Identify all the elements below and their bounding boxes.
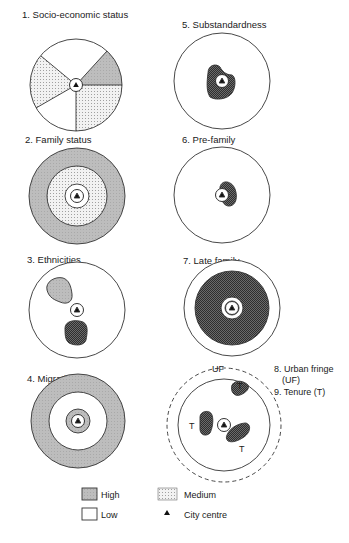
panel-title: 1. Socio-economic status	[22, 9, 128, 20]
panel-ethnicities: 3. Ethnicities	[27, 254, 125, 358]
legend-swatch-high	[82, 488, 97, 500]
city-centre-icon	[71, 190, 84, 203]
panel-substandardness: 5. Substandardness	[174, 19, 270, 129]
city-centre-icon	[226, 302, 239, 315]
panel-urban-fringe-tenure: UF T T T 8. Urban fringe (UF) 9. Tenure …	[167, 364, 334, 482]
city-centre-icon	[218, 419, 231, 432]
tenure-annotation: T	[237, 381, 243, 391]
tenure-cluster	[200, 411, 213, 435]
panel-socio-economic-status: 1. Socio-economic status	[22, 9, 128, 131]
city-centre-icon	[72, 415, 85, 428]
legend-swatch-medium	[158, 488, 177, 500]
panel-title: 2. Family status	[25, 134, 92, 145]
panel-title: 6. Pre-family	[182, 134, 236, 145]
legend-label-city-centre: City centre	[184, 510, 227, 520]
legend: High Low Medium City centre	[82, 488, 227, 520]
city-centre-icon	[216, 75, 229, 88]
city-centre-icon	[71, 304, 84, 317]
legend-swatch-low	[82, 508, 97, 520]
city-centre-icon	[164, 510, 170, 515]
panel-title: 5. Substandardness	[182, 19, 267, 30]
panel-pre-family: 6. Pre-family	[174, 134, 270, 243]
city-centre-icon	[70, 79, 83, 92]
legend-label-low: Low	[101, 510, 118, 520]
tenure-annotation: T	[189, 421, 195, 431]
panel-late-family: 7. Late family	[183, 255, 280, 356]
uf-annotation: UF	[212, 364, 224, 374]
panel-subtitle: (UF)	[282, 375, 300, 385]
tenure-annotation: T	[239, 444, 245, 454]
panel-family-status: 2. Family status	[25, 134, 125, 244]
panel-title: 8. Urban fringe	[274, 364, 334, 374]
city-centre-icon	[216, 189, 229, 202]
diagram-canvas: 1. Socio-economic status 2. Family statu…	[0, 0, 349, 543]
panel-migration: 4. Migration	[27, 373, 125, 468]
legend-label-medium: Medium	[184, 490, 216, 500]
panel-title: 9. Tenure (T)	[274, 387, 325, 397]
legend-label-high: High	[101, 490, 120, 500]
